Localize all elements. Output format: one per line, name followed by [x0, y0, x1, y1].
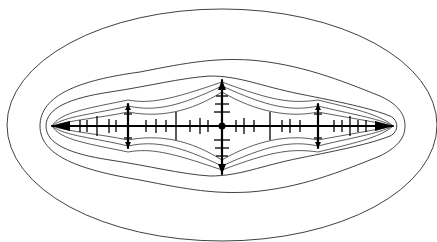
julia-set [52, 80, 393, 174]
julia-set-figure [0, 0, 437, 242]
